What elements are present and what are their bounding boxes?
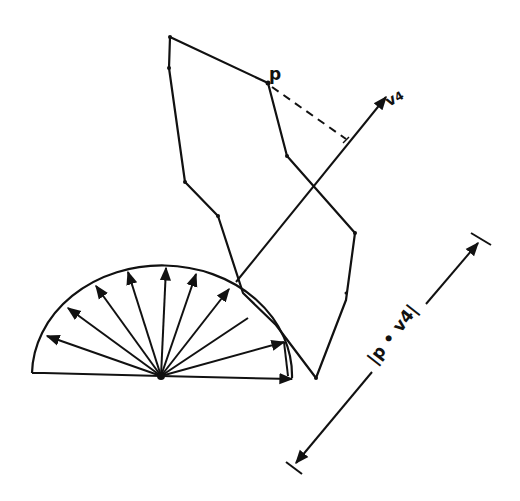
polygon-outline [169,37,355,378]
diagram-canvas: p v4 |p • v4| [0,0,520,501]
v4-vector-arrow [236,97,386,282]
projection-dashed-line [272,87,346,139]
semicircle-center [157,372,165,380]
vector-v4-label: v4 [382,86,407,111]
point-p-label: p [269,64,281,84]
polygon-vertices [167,35,357,380]
dimension-label: |p • v4| [363,300,422,368]
semicircle-arrows [32,268,292,379]
